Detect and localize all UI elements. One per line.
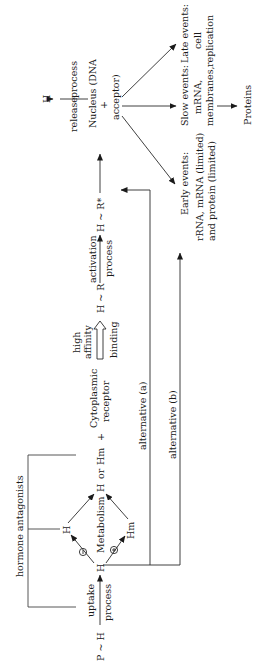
activation-process-label: process	[103, 240, 114, 277]
result-h: H	[95, 484, 106, 492]
metabolism-label: Metabolism	[95, 496, 106, 553]
binding-label: binding	[108, 321, 119, 358]
release-label: release	[68, 97, 79, 132]
hollow-binding-arrow	[94, 321, 106, 359]
arrow-hm-to-result	[106, 494, 128, 519]
arrow-upper-h-to-result	[68, 494, 94, 523]
released-hormone: H	[41, 95, 52, 103]
binding-affinity-label: affinity	[82, 325, 93, 359]
receptor-label: receptor	[100, 380, 111, 422]
activation-label: activation	[87, 235, 98, 283]
proteins-label: Proteins	[242, 85, 253, 125]
nucleus-label: Nucleus (DNA	[87, 59, 98, 128]
activated-complex-node: H ~ R*	[95, 198, 106, 232]
arrow-to-upper-h	[71, 535, 94, 563]
cytoplasmic-label: Cytoplasmic	[88, 369, 99, 428]
late-events-cell: cell	[192, 32, 203, 49]
metabolite-node: Hm	[125, 522, 136, 539]
nucleus-plus: +	[98, 101, 109, 109]
alternative-b-label: alternative (b)	[167, 390, 178, 459]
late-events-label: Late events:	[179, 4, 190, 63]
early-events-protein: and protein (limited)	[206, 141, 217, 241]
precursor-label: P ~ H	[95, 632, 106, 661]
uptake-label: uptake	[85, 584, 96, 617]
upper-hormone-node: H	[61, 526, 72, 534]
binding-high-label: high	[71, 332, 82, 353]
pathway-diagram: P ~ H uptake process H H Hm Metabolism H…	[0, 0, 258, 669]
uptake-process-label: process	[102, 584, 113, 621]
early-events-rna: rRNA, mRNA (limited)	[194, 133, 205, 241]
release-process-label: process	[68, 61, 79, 98]
nucleus-acceptor-label: acceptor)	[110, 74, 121, 120]
slow-events-label: Slow events:	[179, 65, 190, 126]
arrow-to-late	[122, 44, 176, 97]
result-or: or	[95, 468, 106, 479]
slow-events-mrna: mRNA,	[192, 80, 203, 114]
alternative-a-label: alternative (a)	[137, 382, 148, 450]
antagonists-label: hormone antagonists	[14, 475, 25, 577]
late-events-replication: replication	[204, 15, 215, 67]
arrow-to-hm	[106, 536, 125, 563]
slow-events-membranes: membranes,	[204, 66, 215, 126]
arrow-to-early	[122, 116, 175, 184]
complex-node: H ~ R	[95, 283, 106, 313]
result-hm: Hm	[95, 448, 106, 465]
plus-sign: +	[95, 433, 106, 441]
early-events-label: Early events:	[179, 152, 190, 215]
